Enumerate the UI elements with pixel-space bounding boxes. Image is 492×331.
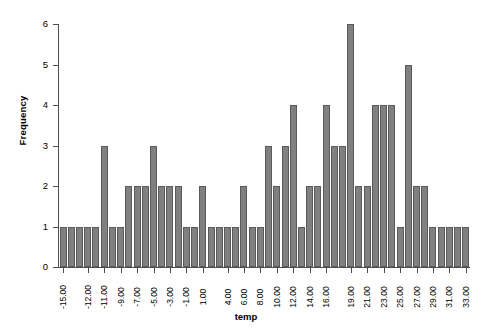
bar-slot: [347, 24, 355, 267]
histogram-bar: [150, 146, 157, 268]
x-axis-tick: [433, 268, 434, 273]
x-axis-tick: [186, 268, 187, 273]
histogram-bar: [142, 186, 149, 267]
histogram-bar: [323, 105, 330, 267]
histogram-bar: [298, 227, 305, 268]
x-axis-tick: [351, 268, 352, 273]
histogram-bar: [314, 186, 321, 267]
bar-slot: [133, 24, 141, 267]
histogram-bar: [446, 227, 453, 268]
y-axis-tick: [53, 267, 58, 268]
bar-slot: [363, 24, 371, 267]
bar-slot: [421, 24, 429, 267]
bar-slot: [306, 24, 314, 267]
x-axis-title: temp: [0, 311, 492, 322]
histogram-bar: [125, 186, 132, 267]
bar-slot: [191, 24, 199, 267]
bar-slot: [404, 24, 412, 267]
bar-slot: [240, 24, 248, 267]
bar-slot: [182, 24, 190, 267]
y-axis-tick-label: 3: [0, 141, 48, 150]
histogram-bar: [101, 146, 108, 268]
bar-slot: [207, 24, 215, 267]
histogram-bar: [438, 227, 445, 268]
histogram-bar: [191, 227, 198, 268]
bar-slot: [412, 24, 420, 267]
bar-slot: [141, 24, 149, 267]
histogram-bar: [397, 227, 404, 268]
bar-slot: [322, 24, 330, 267]
y-axis-tick-label: 1: [0, 222, 48, 231]
bar-slot: [371, 24, 379, 267]
histogram-bar: [84, 227, 91, 268]
histogram-bar: [175, 186, 182, 267]
histogram-bar: [331, 146, 338, 268]
histogram-bar: [462, 227, 469, 268]
histogram-bar: [364, 186, 371, 267]
bar-slot: [256, 24, 264, 267]
y-axis-tick: [53, 65, 58, 66]
bar-slot: [215, 24, 223, 267]
y-axis-tick-label: 6: [0, 19, 48, 28]
histogram-bar: [429, 227, 436, 268]
bar-slot: [149, 24, 157, 267]
bar-slot: [199, 24, 207, 267]
x-axis-tick: [63, 268, 64, 273]
y-axis-tick: [53, 24, 58, 25]
histogram-bar: [265, 146, 272, 268]
plot-area: [59, 24, 470, 267]
histogram-bar: [380, 105, 387, 267]
y-axis-tick-label: 0: [0, 262, 48, 271]
histogram-bar: [306, 186, 313, 267]
y-axis-tick-label: 2: [0, 181, 48, 190]
bar-slot: [100, 24, 108, 267]
bar-slot: [264, 24, 272, 267]
histogram-bar: [413, 186, 420, 267]
y-axis-tick-label: 5: [0, 60, 48, 69]
histogram-bar: [273, 186, 280, 267]
bar-slot: [330, 24, 338, 267]
bar-slot: [429, 24, 437, 267]
bar-slot: [380, 24, 388, 267]
bar-slot: [67, 24, 75, 267]
bar-slot: [158, 24, 166, 267]
histogram-bar: [117, 227, 124, 268]
bar-slot: [92, 24, 100, 267]
histogram-bar: [388, 105, 395, 267]
histogram-bar: [134, 186, 141, 267]
x-axis-tick: [104, 268, 105, 273]
y-axis-tick: [53, 186, 58, 187]
bar-slot: [355, 24, 363, 267]
histogram-bar: [60, 227, 67, 268]
histogram-bar: [216, 227, 223, 268]
bar-slot: [297, 24, 305, 267]
bar-slot: [462, 24, 470, 267]
bar-slot: [314, 24, 322, 267]
histogram-bar: [355, 186, 362, 267]
bar-slot: [84, 24, 92, 267]
x-axis-tick: [88, 268, 89, 273]
x-axis-tick: [326, 268, 327, 273]
bar-slot: [174, 24, 182, 267]
histogram-bar: [199, 186, 206, 267]
bar-slot: [445, 24, 453, 267]
histogram-bar: [224, 227, 231, 268]
x-axis-tick: [121, 268, 122, 273]
histogram-bar: [158, 186, 165, 267]
bar-slot: [289, 24, 297, 267]
bar-slot: [273, 24, 281, 267]
histogram-chart: Frequency 0123456 -15.00-12.00-11.00-9.0…: [0, 0, 492, 331]
histogram-bar: [183, 227, 190, 268]
y-axis-tick: [53, 105, 58, 106]
histogram-bar: [257, 227, 264, 268]
x-axis-labels: -15.00-12.00-11.00-9.00-7.00-5.00-3.00-1…: [59, 274, 470, 316]
x-axis-tick: [137, 268, 138, 273]
x-axis-tick: [310, 268, 311, 273]
x-axis-tick: [400, 268, 401, 273]
x-axis-tick: [244, 268, 245, 273]
bar-series: [59, 24, 470, 267]
histogram-bar: [109, 227, 116, 268]
x-axis-tick: [203, 268, 204, 273]
x-axis-tick: [466, 268, 467, 273]
bar-slot: [388, 24, 396, 267]
